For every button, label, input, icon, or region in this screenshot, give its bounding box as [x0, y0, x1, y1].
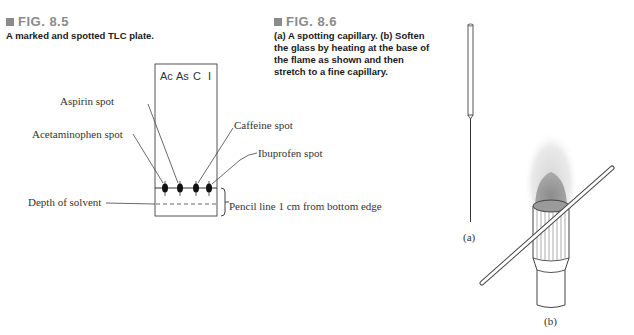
spot-caffeine: [193, 181, 199, 196]
label-acetaminophen-spot: Acetaminophen spot: [32, 128, 123, 140]
label-a: (a): [463, 231, 476, 244]
lane-label-i: I: [208, 70, 211, 82]
label-ibuprofen-spot: Ibuprofen spot: [258, 147, 322, 159]
label-depth-of-solvent: Depth of solvent: [28, 196, 101, 208]
spot-ibuprofen: [206, 181, 212, 196]
spot-aspirin: [177, 181, 183, 196]
plate-outline: [155, 64, 217, 216]
lane-label-c: C: [193, 70, 201, 82]
label-caffeine-spot: Caffeine spot: [234, 119, 293, 131]
label-b: (b): [544, 315, 557, 328]
lane-label-as: As: [176, 70, 189, 82]
spot-acetaminophen: [162, 181, 168, 196]
label-pencil-line: Pencil line 1 cm from bottom edge: [229, 200, 382, 212]
pencil-bracket: [221, 188, 225, 216]
figures-canvas: Ac As C I: [0, 0, 634, 335]
lane-label-ac: Ac: [160, 70, 173, 82]
label-aspirin-spot: Aspirin spot: [60, 95, 114, 107]
spotting-capillary: [468, 24, 473, 222]
burner-flame-illustration: [482, 126, 612, 308]
tlc-plate: Ac As C I: [155, 64, 229, 216]
